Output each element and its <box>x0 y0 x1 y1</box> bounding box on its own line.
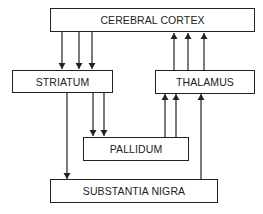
node-pallidum: PALLIDUM <box>83 137 189 161</box>
node-cerebral-cortex: CEREBRAL CORTEX <box>50 8 255 32</box>
node-label: THALAMUS <box>176 76 234 88</box>
node-thalamus: THALAMUS <box>155 70 255 94</box>
node-striatum: STRIATUM <box>12 70 113 93</box>
node-label: PALLIDUM <box>110 143 163 155</box>
node-label: SUBSTANTIA NIGRA <box>83 185 185 197</box>
node-substantia-nigra: SUBSTANTIA NIGRA <box>50 179 218 203</box>
node-label: STRIATUM <box>36 76 90 88</box>
node-label: CEREBRAL CORTEX <box>100 14 204 26</box>
